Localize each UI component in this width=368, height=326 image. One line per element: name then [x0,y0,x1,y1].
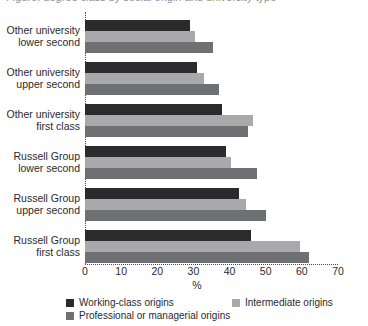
x-tick-label: 10 [115,265,127,277]
x-tick-label: 50 [260,265,272,277]
bar [85,115,253,126]
bar [85,146,226,157]
legend-swatch-icon [66,312,74,320]
category-label-line: first class [0,246,80,259]
legend-item[interactable]: Working-class origins [66,297,174,308]
category-label: Russell Groupfirst class [0,234,80,259]
bar-group [85,230,338,263]
category-label-line: Other university [0,108,80,121]
x-tick-label: 60 [296,265,308,277]
bar-group [85,188,338,221]
legend-item[interactable]: Intermediate origins [232,297,333,308]
x-tick-label: 30 [188,265,200,277]
category-label-line: lower second [0,162,80,175]
bar [85,73,204,84]
legend-swatch-icon [232,299,240,307]
legend-item[interactable]: Professional or managerial origins [66,310,230,321]
category-label-line: Russell Group [0,150,80,163]
bar [85,188,239,199]
category-label-line: Russell Group [0,192,80,205]
category-label: Other universityfirst class [0,108,80,133]
x-tick-label: 40 [224,265,236,277]
bar-group [85,20,338,53]
category-label-line: upper second [0,78,80,91]
x-tick-label: 20 [151,265,163,277]
legend-label: Professional or managerial origins [79,310,230,321]
legend-swatch-icon [66,299,74,307]
chart-legend: Working-class originsIntermediate origin… [66,297,366,325]
plot-area [85,12,338,264]
legend-label: Intermediate origins [245,297,333,308]
bar [85,42,213,53]
category-label-line: Other university [0,66,80,79]
category-label-line: Russell Group [0,234,80,247]
bar [85,230,251,241]
bar-group [85,62,338,95]
bar [85,20,190,31]
category-label: Russell Grouplower second [0,150,80,175]
cut-off-title-text: Figure: degree class by social origin an… [6,0,276,3]
bar [85,157,231,168]
bar [85,241,300,252]
x-tick-label: 0 [82,265,88,277]
cut-off-title: Figure: degree class by social origin an… [0,0,368,9]
category-label: Other universityupper second [0,66,80,91]
bar-chart: Figure: degree class by social origin an… [0,0,368,326]
bar [85,104,222,115]
x-tick-label: 70 [332,265,344,277]
bar [85,84,219,95]
bar [85,199,246,210]
bar [85,168,257,179]
x-tick-labels: 010203040506070 [85,265,345,279]
bar [85,252,309,263]
bar [85,210,266,221]
category-label-line: upper second [0,204,80,217]
category-label-line: lower second [0,36,80,49]
x-axis-title: % [0,279,368,291]
bar-group [85,104,338,137]
legend-label: Working-class origins [79,297,174,308]
category-label-line: first class [0,120,80,133]
bar [85,62,197,73]
category-axis-labels: Other universitylower secondOther univer… [0,12,80,264]
category-label-line: Other university [0,24,80,37]
bar [85,31,195,42]
category-label: Other universitylower second [0,24,80,49]
bar [85,126,248,137]
bar-group [85,146,338,179]
category-label: Russell Groupupper second [0,192,80,217]
